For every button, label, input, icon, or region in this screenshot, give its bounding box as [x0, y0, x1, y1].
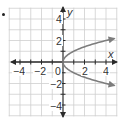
origin-label: 0 [55, 65, 61, 77]
x-axis-label: x [107, 48, 114, 60]
y-tick-label-2: 2 [56, 35, 62, 47]
x-tick-label-neg4: −4 [13, 65, 25, 77]
y-axis-label: y [66, 6, 74, 18]
y-tick-label-4: 4 [56, 13, 62, 25]
graph-figure: 4 2 −2 −4 −4 −2 0 2 4 x y [0, 0, 121, 120]
curve-upper-branch [63, 38, 115, 62]
coordinate-plane: 4 2 −2 −4 −4 −2 0 2 4 x y [0, 0, 121, 120]
x-tick-label-2: 2 [82, 65, 88, 77]
y-tick-label-neg4: −4 [50, 100, 62, 112]
x-tick-label-4: 4 [103, 65, 109, 77]
axes [11, 7, 117, 117]
x-tick-label-neg2: −2 [34, 65, 46, 77]
list-bullet [2, 13, 5, 16]
y-tick-label-neg2: −2 [50, 78, 62, 90]
